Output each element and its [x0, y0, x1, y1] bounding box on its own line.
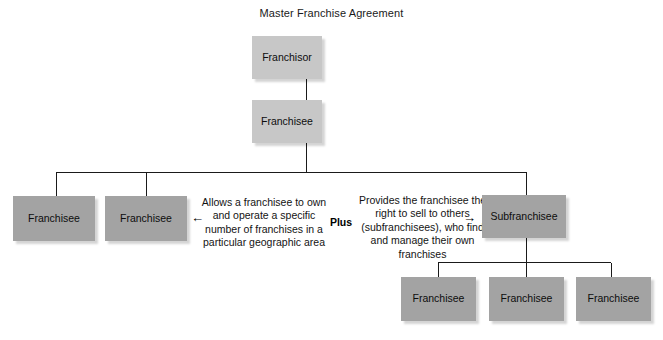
node-left-franchisee-2-label: Franchisee: [120, 213, 172, 225]
node-sub-franchisee-1-label: Franchisee: [413, 293, 465, 305]
franchise-structure-diagram: Master Franchise Agreement Franchisor Fr…: [0, 0, 663, 340]
node-master-franchisee-label: Franchisee: [261, 116, 313, 128]
node-sub-franchisee-3[interactable]: Franchisee: [576, 277, 651, 321]
node-franchisor-label: Franchisor: [262, 52, 312, 64]
node-sub-franchisee-2[interactable]: Franchisee: [489, 277, 564, 321]
node-left-franchisee-1[interactable]: Franchisee: [13, 196, 95, 241]
node-master-franchisee[interactable]: Franchisee: [252, 100, 322, 143]
left-description-text: Allows a franchisee to own and operate a…: [196, 196, 332, 250]
node-left-franchisee-1-label: Franchisee: [28, 213, 80, 225]
node-sub-franchisee-3-label: Franchisee: [588, 293, 640, 305]
arrow-right-icon: →: [463, 211, 476, 224]
node-subfranchisee-label: Subfranchisee: [490, 211, 557, 223]
node-franchisor[interactable]: Franchisor: [252, 36, 322, 79]
plus-label: Plus: [325, 216, 357, 228]
right-description-text: Provides the franchisee the right to sel…: [356, 194, 489, 261]
node-sub-franchisee-1[interactable]: Franchisee: [401, 277, 476, 321]
node-sub-franchisee-2-label: Franchisee: [501, 293, 553, 305]
node-left-franchisee-2[interactable]: Franchisee: [105, 196, 187, 241]
node-subfranchisee[interactable]: Subfranchisee: [482, 195, 566, 238]
